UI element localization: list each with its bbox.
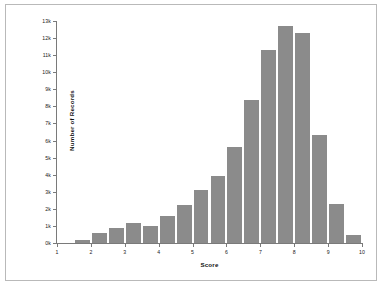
y-tick-mark	[53, 21, 57, 22]
histogram-bar	[345, 235, 362, 243]
x-tick-label: 6	[225, 249, 228, 255]
x-tick-label: 7	[259, 249, 262, 255]
y-tick-mark	[53, 55, 57, 56]
y-tick-mark	[53, 38, 57, 39]
x-tick-label: 10	[359, 249, 365, 255]
y-tick-label: 12k	[42, 35, 51, 41]
y-tick-mark	[53, 158, 57, 159]
y-tick-mark	[53, 72, 57, 73]
histogram-bar	[328, 204, 345, 243]
y-tick-label: 10k	[42, 69, 51, 75]
y-tick-label: 0k	[45, 240, 51, 246]
histogram-bar	[260, 50, 277, 243]
y-tick-mark	[53, 226, 57, 227]
histogram-bar	[210, 176, 227, 243]
y-axis-title: Number of Records	[68, 51, 75, 191]
y-tick-mark	[53, 89, 57, 90]
histogram-bar	[142, 226, 159, 243]
y-tick-label: 2k	[45, 206, 51, 212]
histogram-bar	[108, 228, 125, 243]
x-tick-label: 2	[89, 249, 92, 255]
y-tick-label: 3k	[45, 189, 51, 195]
histogram-bar	[226, 147, 243, 243]
x-axis-line	[56, 243, 363, 244]
histogram-bar	[277, 26, 294, 243]
x-tick-mark	[362, 243, 363, 247]
y-tick-label: 4k	[45, 172, 51, 178]
x-tick-label: 1	[56, 249, 59, 255]
y-tick-mark	[53, 106, 57, 107]
histogram-bar	[159, 216, 176, 243]
y-tick-mark	[53, 141, 57, 142]
y-tick-label: 6k	[45, 138, 51, 144]
y-tick-label: 9k	[45, 86, 51, 92]
histogram-bar	[74, 240, 91, 243]
histogram-bar	[176, 205, 193, 243]
histogram-bar	[243, 100, 260, 243]
histogram-bar	[311, 135, 328, 243]
x-tick-label: 5	[191, 249, 194, 255]
histogram-bar	[91, 233, 108, 243]
histogram-bar	[125, 223, 142, 243]
x-tick-label: 4	[157, 249, 160, 255]
x-tick-mark	[125, 243, 126, 247]
x-tick-mark	[226, 243, 227, 247]
y-tick-label: 7k	[45, 120, 51, 126]
y-tick-mark	[53, 175, 57, 176]
histogram-bar	[294, 33, 311, 243]
x-tick-mark	[193, 243, 194, 247]
x-tick-mark	[159, 243, 160, 247]
x-axis-title: Score	[57, 261, 362, 268]
x-tick-mark	[294, 243, 295, 247]
histogram-bar	[193, 190, 210, 243]
histogram-figure: 0k1k2k3k4k5k6k7k8k9k10k11k12k13k 1234567…	[0, 0, 382, 286]
x-tick-mark	[91, 243, 92, 247]
y-tick-label: 5k	[45, 155, 51, 161]
y-tick-mark	[53, 192, 57, 193]
y-tick-label: 11k	[43, 52, 51, 58]
y-tick-label: 1k	[45, 223, 51, 229]
x-tick-mark	[328, 243, 329, 247]
y-tick-label: 8k	[45, 103, 51, 109]
plot-area: 0k1k2k3k4k5k6k7k8k9k10k11k12k13k 1234567…	[57, 21, 362, 243]
y-tick-mark	[53, 123, 57, 124]
x-tick-label: 8	[293, 249, 296, 255]
x-tick-mark	[260, 243, 261, 247]
y-tick-mark	[53, 209, 57, 210]
y-tick-label: 13k	[42, 18, 51, 24]
x-tick-label: 9	[327, 249, 330, 255]
x-tick-mark	[57, 243, 58, 247]
x-tick-label: 3	[123, 249, 126, 255]
